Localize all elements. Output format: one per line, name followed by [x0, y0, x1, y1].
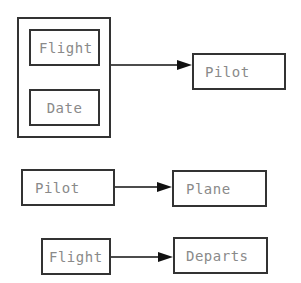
dependency-arrows: [0, 0, 301, 283]
arrow-flight-to-departs: [111, 252, 173, 262]
arrow-pilot-to-plane: [115, 182, 172, 192]
arrow-group-to-pilot: [111, 60, 192, 70]
